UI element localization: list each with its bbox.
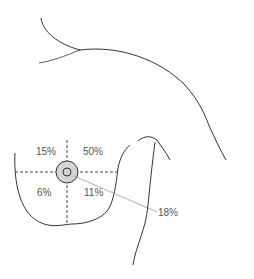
neck-outline	[41, 18, 80, 50]
upper-inner-quadrant-label: 50%	[83, 147, 103, 157]
breast-outline	[15, 145, 130, 226]
arm-outline-side	[133, 142, 155, 265]
lower-inner-quadrant-label: 11%	[84, 188, 103, 198]
nipple-areola-label: 18%	[158, 208, 178, 218]
lower-outer-quadrant-label: 6%	[37, 188, 51, 198]
areola	[56, 161, 78, 183]
upper-outer-quadrant-label: 15%	[36, 147, 56, 157]
anatomy-diagram	[0, 0, 254, 279]
shoulder-outline	[80, 49, 226, 160]
collarbone-outline	[39, 50, 80, 63]
